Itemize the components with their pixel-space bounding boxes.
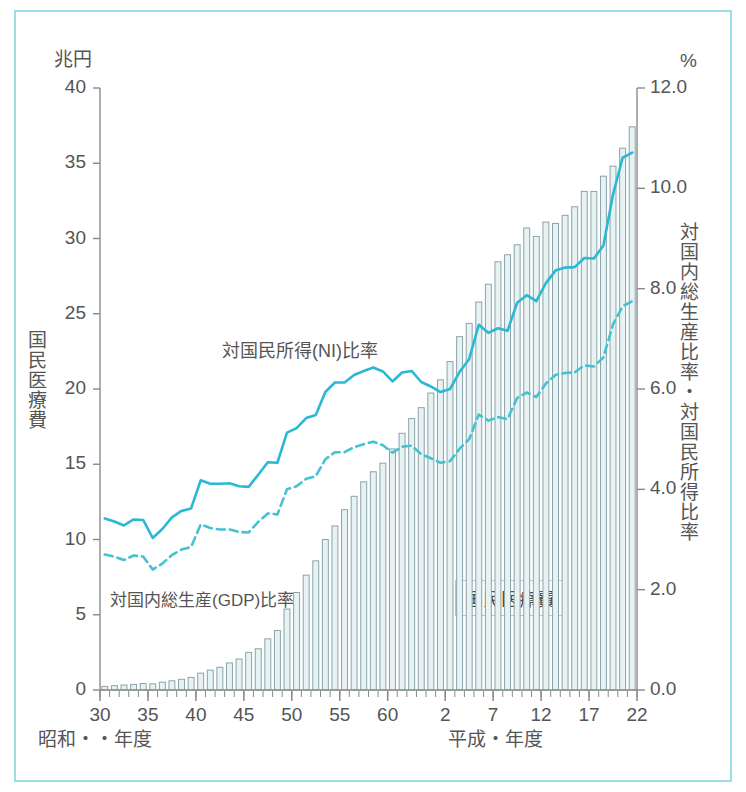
bar bbox=[265, 639, 271, 690]
bar bbox=[159, 682, 165, 690]
bar bbox=[533, 236, 539, 690]
bar bbox=[428, 393, 434, 690]
bar bbox=[274, 631, 280, 690]
bar bbox=[437, 380, 443, 690]
bar bbox=[207, 670, 213, 690]
bar bbox=[131, 684, 137, 690]
bar bbox=[572, 207, 578, 690]
bar bbox=[562, 215, 568, 690]
bar bbox=[600, 176, 606, 690]
bar bbox=[121, 685, 127, 690]
bar bbox=[140, 684, 146, 690]
bar bbox=[610, 166, 616, 690]
bar bbox=[418, 408, 424, 690]
bar bbox=[380, 463, 386, 690]
bar bbox=[188, 677, 194, 690]
bar bbox=[179, 679, 185, 690]
bar bbox=[495, 262, 501, 690]
bar bbox=[485, 284, 491, 690]
bar bbox=[591, 191, 597, 690]
bar bbox=[246, 652, 252, 690]
bar bbox=[284, 609, 290, 690]
bar bbox=[390, 449, 396, 690]
bar bbox=[581, 191, 587, 690]
bar bbox=[543, 222, 549, 690]
bar bbox=[476, 302, 482, 690]
bar bbox=[629, 127, 635, 690]
bar bbox=[370, 472, 376, 690]
bar bbox=[322, 540, 328, 691]
bar bbox=[150, 684, 156, 690]
chart-stage: 兆円 % 国民医療費 対国内総生産比率・対国民所得比率 対国民所得(NI)比率 … bbox=[0, 0, 746, 792]
bar bbox=[169, 681, 175, 690]
bar bbox=[342, 510, 348, 690]
bar bbox=[457, 337, 463, 690]
bar bbox=[351, 496, 357, 690]
bar bbox=[409, 419, 415, 691]
bar bbox=[226, 663, 232, 690]
bar bbox=[303, 575, 309, 690]
bar bbox=[466, 323, 472, 690]
bar bbox=[553, 223, 559, 690]
bar bbox=[217, 667, 223, 690]
bar bbox=[399, 433, 405, 690]
bar bbox=[294, 592, 300, 690]
plot-area bbox=[0, 0, 746, 792]
bar bbox=[313, 561, 319, 690]
bar bbox=[505, 255, 511, 690]
bar bbox=[620, 148, 626, 690]
bar bbox=[361, 482, 367, 690]
bar bbox=[236, 659, 242, 690]
bar bbox=[255, 649, 261, 690]
bar bbox=[332, 526, 338, 690]
bar bbox=[447, 362, 453, 690]
bar bbox=[198, 673, 204, 690]
